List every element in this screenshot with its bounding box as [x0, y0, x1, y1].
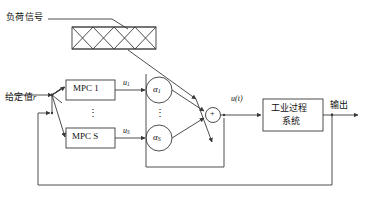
network-to-weights-lower: [196, 99, 212, 142]
alpha-1-label: α1: [153, 85, 161, 94]
u1-label: u1: [123, 79, 130, 88]
process-block-label-line1: 工业过程: [271, 104, 307, 113]
mpc-s-label: MPC S: [72, 132, 98, 141]
branch-to-mpc1: [52, 87, 65, 95]
mpc-1-label: MPC 1: [73, 84, 99, 93]
alpha-s-label: αS: [153, 133, 161, 142]
branch-to-mpcs: [52, 95, 65, 137]
mpc-vertical-dots: ⋮: [88, 108, 98, 118]
control-signal-arg: (t): [235, 94, 243, 103]
alpha-vertical-dots: ⋮: [155, 108, 165, 118]
alphas-to-sum: [172, 118, 204, 138]
load-signal-leader: [48, 19, 128, 29]
output-label: 输出: [330, 101, 348, 110]
inner-tap-node: [223, 114, 225, 116]
load-signal-label: 负荷信号: [6, 13, 43, 22]
summing-junction-symbol: +: [210, 110, 215, 118]
setpoint-label: 给定值r: [5, 87, 36, 103]
scheduler-network-box: [72, 27, 156, 49]
us-sub: S: [127, 129, 130, 135]
us-label: uS: [123, 127, 130, 136]
output-tap-node: [331, 114, 333, 116]
diagram-canvas: 负荷信号 给定值r MPC 1 MPC S ⋮ ⋮ u1 uS α1 αS + …: [0, 0, 370, 199]
network-to-weights: [128, 50, 196, 99]
process-block-label-line2: 系统: [282, 117, 300, 126]
setpoint-text: 给定值: [5, 92, 33, 102]
control-signal-label: u(t): [231, 95, 243, 103]
setpoint-variable: r: [33, 93, 36, 102]
diagram-vector-layer: [0, 0, 370, 199]
alpha-s-sub: S: [158, 136, 161, 142]
alpha-1-sub: 1: [158, 88, 161, 94]
u1-sub: 1: [127, 81, 130, 87]
